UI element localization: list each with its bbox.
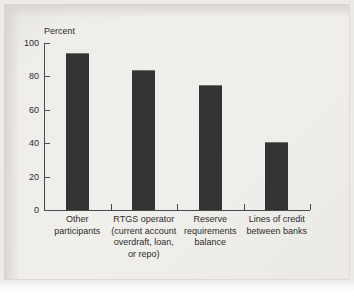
y-axis-tick-mark: [45, 43, 50, 44]
y-axis-tick-label: 80: [29, 72, 39, 81]
bar: [132, 70, 155, 210]
y-axis-tick-mark: [45, 143, 50, 144]
x-axis-tick-mark: [177, 204, 178, 210]
y-axis-tick-mark: [45, 210, 50, 211]
x-axis-tick-mark: [111, 204, 112, 210]
y-axis-tick-mark: [45, 177, 50, 178]
y-axis-tick-label: 60: [29, 105, 39, 114]
y-axis-tick-mark: [45, 76, 50, 77]
y-axis-tick-label: 40: [29, 139, 39, 148]
x-axis-category-label: RTGS operator (current account overdraft…: [111, 214, 178, 260]
figure-shade-bottom: [0, 280, 354, 296]
bar: [199, 85, 222, 210]
x-axis-category-label: Lines of credit between banks: [244, 214, 311, 237]
y-axis-line: [44, 43, 45, 211]
figure-container: Percent 020406080100 Other participantsR…: [0, 0, 354, 296]
y-axis-tick-mark: [45, 110, 50, 111]
x-axis-tick-mark: [244, 204, 245, 210]
figure-shade-top: [4, 4, 350, 18]
figure-shade-left: [4, 4, 20, 280]
y-axis-tick-label: 100: [24, 39, 39, 48]
x-axis-category-label: Other participants: [44, 214, 111, 237]
bar: [66, 53, 89, 210]
x-axis-category-label: Reserve requirements balance: [177, 214, 244, 249]
y-axis-tick-label: 20: [29, 172, 39, 181]
plot-area: 020406080100: [44, 43, 310, 210]
y-axis-title: Percent: [44, 27, 75, 36]
x-axis-line: [44, 210, 310, 211]
x-axis-tick-mark: [310, 204, 311, 210]
y-axis-tick-label: 0: [34, 206, 39, 215]
bar: [265, 142, 288, 210]
